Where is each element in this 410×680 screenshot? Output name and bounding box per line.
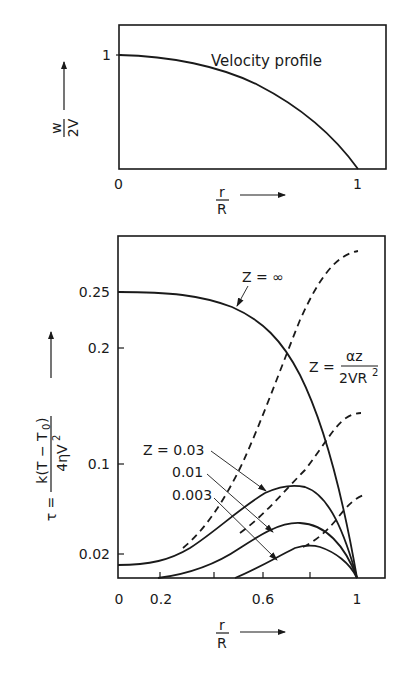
top-plot-frame <box>119 25 386 169</box>
y-tick-label-02: 0.2 <box>88 340 110 356</box>
bottom-ylabel-prefix: τ = <box>43 497 59 522</box>
annotation-z-denominator-sup: 2 <box>372 367 378 378</box>
dashed-curve-z-001-asymptote <box>240 413 361 533</box>
top-x-axis-label: r R <box>216 184 285 217</box>
y-tick-label-002: 0.02 <box>79 546 110 562</box>
figure: 1 0 1 Velocity profile r R w 2V 0 <box>0 0 410 680</box>
bottom-plot-frame <box>118 236 385 578</box>
curve-z-0003 <box>235 546 357 578</box>
bottom-xlabel-numerator: r <box>219 617 225 633</box>
temperature-profile-chart: 0.25 0.2 0.1 0.02 0 0.2 0.6 1 Z = ∞ Z = … <box>34 236 385 651</box>
velocity-profile-chart: 1 0 1 Velocity profile r R w 2V <box>48 25 386 217</box>
annotation-z-prefix: Z = <box>309 359 335 375</box>
x-tick-label-1: 1 <box>353 591 362 607</box>
annotation-z-numerator: αz <box>346 348 363 364</box>
top-xlabel-numerator: r <box>219 184 225 200</box>
annotation-z-001: 0.01 <box>172 464 203 480</box>
x-tick-label-0: 0 <box>115 591 124 607</box>
bottom-ylabel-den-sup: 2 <box>51 435 62 441</box>
bottom-ylabel-numerator: k(T − T <box>34 432 50 484</box>
velocity-profile-curve <box>119 55 358 169</box>
x-tick-label-02: 0.2 <box>150 591 172 607</box>
annotation-z-003: Z = 0.03 <box>143 442 204 458</box>
annotation-z-formula: Z = αz 2VR 2 <box>309 348 378 386</box>
curve-z-infinity <box>118 292 357 578</box>
x-tick-label-06: 0.6 <box>252 591 274 607</box>
y-tick-label-01: 0.1 <box>88 456 110 472</box>
bottom-y-axis-label: τ = k(T − T 0 ) 4ηV 2 <box>34 332 70 521</box>
top-ylabel-denominator: 2V <box>65 118 81 137</box>
dashed-curve-z-003-asymptote <box>183 251 358 548</box>
top-y-axis-label: w 2V <box>48 62 81 137</box>
bottom-ylabel-num-sub: 0 <box>41 424 52 430</box>
annotation-arrow-z-infinity-icon <box>237 286 248 306</box>
curve-z-003 <box>118 486 357 578</box>
top-y-tick-label-1: 1 <box>102 47 111 63</box>
top-x-tick-label-1: 1 <box>353 176 362 192</box>
velocity-profile-title: Velocity profile <box>211 52 322 70</box>
bottom-x-axis-label: r R <box>216 617 285 651</box>
top-ylabel-numerator: w <box>48 122 64 133</box>
bottom-ylabel-num-end: ) <box>34 418 50 423</box>
annotation-z-denominator: 2VR <box>339 370 367 386</box>
annotation-z-0003: 0.003 <box>172 487 212 503</box>
y-tick-label-025: 0.25 <box>79 284 110 300</box>
top-x-tick-label-0: 0 <box>114 176 123 192</box>
bottom-ylabel-denominator: 4ηV <box>54 444 70 472</box>
annotation-z-infinity: Z = ∞ <box>242 269 284 285</box>
bottom-xlabel-denominator: R <box>217 635 227 651</box>
top-xlabel-denominator: R <box>217 201 227 217</box>
